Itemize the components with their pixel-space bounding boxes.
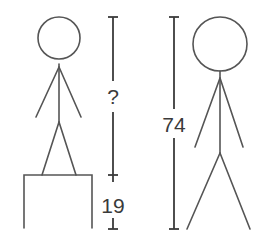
- left-leg-left: [42, 122, 59, 175]
- left-head: [38, 17, 80, 59]
- left-arm-right: [59, 67, 81, 117]
- left-dimension: ? 19: [101, 17, 124, 229]
- box-height-label: 19: [101, 194, 124, 217]
- left-stick-figure: [36, 17, 81, 175]
- right-arm-left: [195, 78, 220, 147]
- unknown-height-label: ?: [107, 85, 119, 108]
- left-leg-right: [59, 122, 76, 175]
- person-height-label: 74: [162, 113, 186, 136]
- height-comparison-diagram: ? 19 74: [0, 0, 265, 244]
- right-dimension: 74: [162, 17, 186, 229]
- left-arm-left: [36, 67, 59, 117]
- right-leg-left: [187, 153, 220, 229]
- box: [24, 175, 92, 228]
- right-head: [193, 17, 247, 71]
- right-leg-right: [220, 153, 250, 229]
- box-outline: [24, 175, 92, 228]
- right-arm-right: [220, 78, 243, 147]
- right-stick-figure: [187, 17, 250, 229]
